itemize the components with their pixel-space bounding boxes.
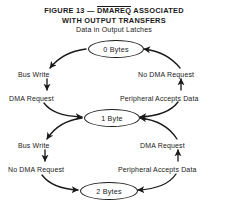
arc-one-to-zero-upper: [144, 49, 180, 68]
edge-label-no-dma-request-upper: No DMA Request: [138, 71, 194, 79]
state-node-1-byte: 1 Byte: [84, 109, 140, 127]
figure-13-state-diagram: FIGURE 13 — DMAREQ ASSOCIATED WITH OUTPU…: [0, 0, 228, 220]
edge-label-peripheral-accepts-data-lower: Peripheral Accepts Data: [118, 166, 197, 174]
state-label-2-bytes: 2 Bytes: [96, 187, 121, 196]
arc-zero-to-one-lower: [44, 103, 82, 117]
state-node-0-bytes: 0 Bytes: [88, 40, 144, 58]
edge-label-dma-request-upper: DMA Request: [9, 95, 54, 103]
edge-label-bus-write-upper: Bus Write: [18, 71, 50, 79]
state-label-0-bytes: 0 Bytes: [103, 45, 128, 54]
state-node-2-bytes: 2 Bytes: [80, 182, 138, 200]
arc-zero-to-one-upper: [50, 49, 86, 68]
edge-label-peripheral-accepts-data-upper: Peripheral Accepts Data: [120, 95, 199, 103]
edge-label-no-dma-request-lower: No DMA Request: [8, 166, 64, 174]
arc-one-to-zero-lower: [140, 102, 178, 117]
arc-two-to-one-lower: [138, 174, 176, 190]
state-label-1-byte: 1 Byte: [101, 114, 123, 123]
edge-label-bus-write-lower: Bus Write: [18, 142, 50, 150]
edge-label-dma-request-lower: DMA Request: [140, 142, 185, 150]
arc-two-to-one-upper: [140, 118, 177, 139]
arc-one-to-two-lower: [42, 175, 78, 190]
arc-one-to-two-upper: [47, 118, 82, 139]
